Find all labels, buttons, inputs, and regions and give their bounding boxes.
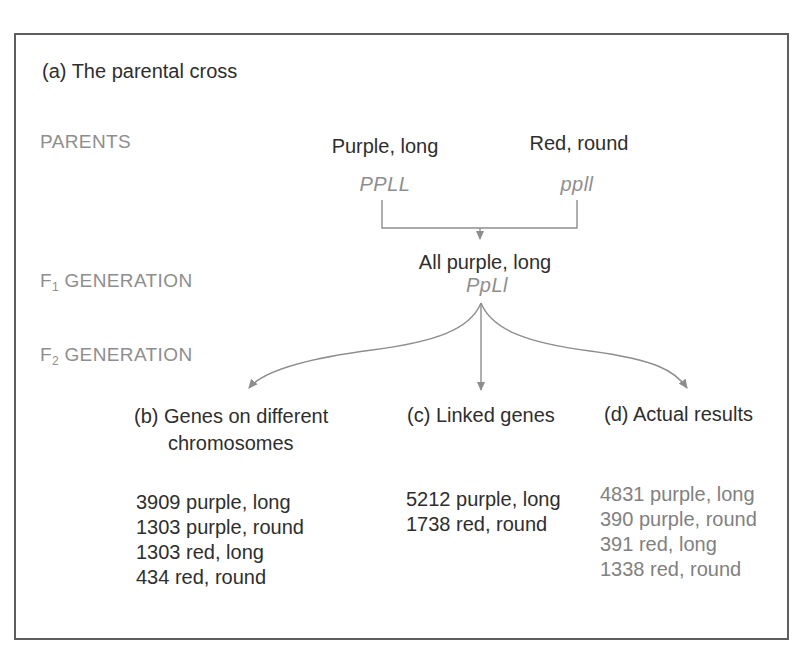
result-line: 390 purple, round [600, 508, 757, 533]
f2-label-subscript: 2 [52, 354, 59, 368]
branch-d-label: (d) Actual results [604, 403, 753, 426]
parent-left-phenotype: Purple, long [332, 135, 439, 158]
parent-right-phenotype: Red, round [530, 132, 629, 155]
result-line: 1303 purple, round [136, 516, 304, 541]
f2-generation-row-label: F2 GENERATION [40, 344, 193, 369]
result-line: 391 red, long [600, 533, 757, 558]
parent-left-genotype: PPLL [360, 173, 411, 196]
result-line: 1303 red, long [136, 541, 304, 566]
branch-b-results: 3909 purple, long 1303 purple, round 130… [136, 491, 304, 591]
result-line: 1738 red, round [406, 513, 561, 538]
result-line: 434 red, round [136, 566, 304, 591]
branch-c-label: (c) Linked genes [407, 404, 555, 427]
result-line: 3909 purple, long [136, 491, 304, 516]
f1-phenotype: All purple, long [419, 251, 551, 274]
parent-right-genotype: ppll [560, 173, 593, 196]
result-line: 1338 red, round [600, 558, 757, 583]
branch-b-label-line2: chromosomes [168, 432, 294, 455]
f1-label-subscript: 1 [52, 280, 59, 294]
f1-label-prefix: F [40, 270, 52, 291]
parents-row-label: PARENTS [40, 131, 131, 153]
result-line: 5212 purple, long [406, 488, 561, 513]
f2-label-rest: GENERATION [59, 344, 193, 365]
f2-label-prefix: F [40, 344, 52, 365]
f1-label-rest: GENERATION [59, 270, 193, 291]
result-line: 4831 purple, long [600, 483, 757, 508]
branch-d-results: 4831 purple, long 390 purple, round 391 … [600, 483, 757, 583]
f1-generation-row-label: F1 GENERATION [40, 270, 193, 295]
branch-c-results: 5212 purple, long 1738 red, round [406, 488, 561, 538]
branch-b-label-line1: (b) Genes on different [134, 405, 328, 428]
panel-title: (a) The parental cross [42, 60, 237, 83]
f1-genotype: PpLl [466, 274, 508, 297]
figure-canvas: (a) The parental cross PARENTS F1 GENERA… [0, 0, 811, 657]
